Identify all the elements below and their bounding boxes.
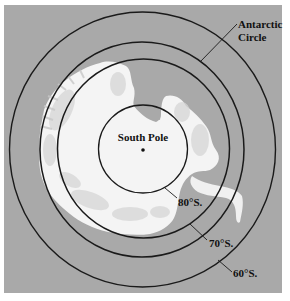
antarctic-circle-label-line1: Antarctic bbox=[238, 18, 283, 30]
label-60s: 60°S. bbox=[233, 267, 258, 279]
south-pole-label: South Pole bbox=[118, 131, 169, 143]
south-pole-dot bbox=[141, 148, 145, 152]
antarctic-circle-label-line2: Circle bbox=[238, 31, 267, 43]
antarctica-map: South Pole Antarctic Circle 80°S. 70°S. … bbox=[0, 0, 290, 301]
label-70s: 70°S. bbox=[209, 237, 234, 249]
label-80s: 80°S. bbox=[178, 196, 203, 208]
